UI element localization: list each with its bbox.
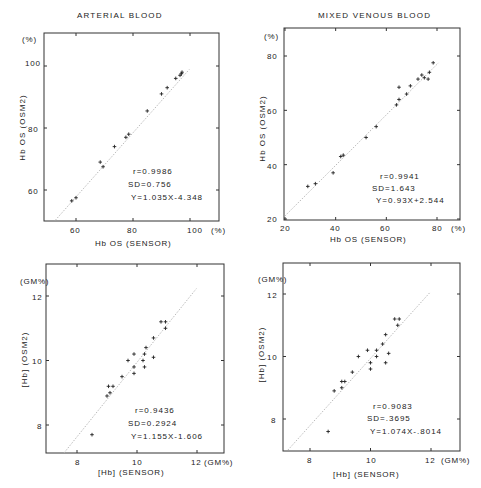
regression-line [285,63,438,216]
plot-frame [46,264,224,453]
plot-frame [44,33,219,221]
plot-frame [284,28,460,220]
regression-line [64,289,196,453]
regression-line [288,292,430,450]
scatter-plots-canvas [0,0,481,488]
plot-frame [283,263,460,451]
